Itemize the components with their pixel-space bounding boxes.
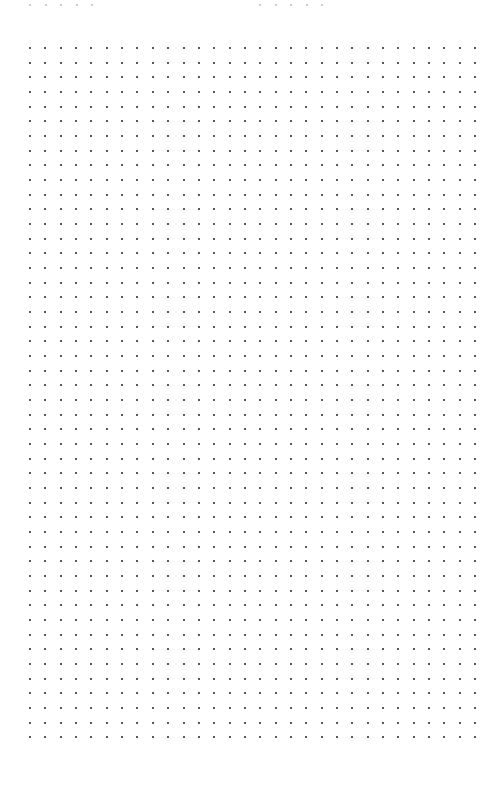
faint-dot [259,4,261,6]
faint-dot [321,4,323,6]
faint-dot [60,4,62,6]
faint-dot [275,4,277,6]
faint-bleed-through-dots [0,0,499,792]
faint-dot [29,4,31,6]
faint-dot [290,4,292,6]
faint-dot [45,4,47,6]
faint-dot [76,4,78,6]
faint-dot [91,4,93,6]
faint-dot [306,4,308,6]
dot-grid-page [0,0,499,792]
